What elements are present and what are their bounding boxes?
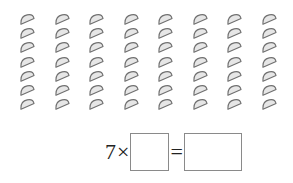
- answer-box-2[interactable]: [184, 133, 242, 171]
- semicircle-dumpling-icon: [53, 55, 88, 69]
- semicircle-dumpling-icon: [53, 97, 88, 111]
- semicircle-dumpling-icon: [225, 40, 260, 54]
- semicircle-dumpling-icon: [122, 12, 157, 26]
- semicircle-dumpling-icon: [18, 55, 53, 69]
- semicircle-dumpling-icon: [260, 12, 293, 26]
- semicircle-dumpling-icon: [191, 40, 226, 54]
- semicircle-dumpling-icon: [87, 69, 122, 83]
- semicircle-dumpling-icon: [225, 55, 260, 69]
- semicircle-dumpling-icon: [156, 26, 191, 40]
- semicircle-dumpling-icon: [87, 40, 122, 54]
- semicircle-dumpling-icon: [53, 69, 88, 83]
- semicircle-dumpling-icon: [87, 97, 122, 111]
- semicircle-dumpling-icon: [18, 12, 53, 26]
- semicircle-dumpling-icon: [122, 55, 157, 69]
- semicircle-dumpling-icon: [18, 83, 53, 97]
- semicircle-dumpling-icon: [260, 40, 293, 54]
- semicircle-dumpling-icon: [18, 40, 53, 54]
- item-grid: [18, 12, 292, 111]
- semicircle-dumpling-icon: [53, 26, 88, 40]
- answer-box-1[interactable]: [130, 133, 169, 171]
- semicircle-dumpling-icon: [156, 83, 191, 97]
- semicircle-dumpling-icon: [87, 26, 122, 40]
- semicircle-dumpling-icon: [191, 55, 226, 69]
- semicircle-dumpling-icon: [225, 69, 260, 83]
- times-sign: ×: [117, 139, 129, 165]
- semicircle-dumpling-icon: [260, 26, 293, 40]
- semicircle-dumpling-icon: [156, 40, 191, 54]
- semicircle-dumpling-icon: [260, 83, 293, 97]
- semicircle-dumpling-icon: [225, 26, 260, 40]
- semicircle-dumpling-icon: [156, 97, 191, 111]
- semicircle-dumpling-icon: [122, 26, 157, 40]
- semicircle-dumpling-icon: [18, 69, 53, 83]
- semicircle-dumpling-icon: [260, 55, 293, 69]
- semicircle-dumpling-icon: [260, 97, 293, 111]
- semicircle-dumpling-icon: [53, 40, 88, 54]
- semicircle-dumpling-icon: [156, 12, 191, 26]
- semicircle-dumpling-icon: [122, 97, 157, 111]
- semicircle-dumpling-icon: [87, 55, 122, 69]
- semicircle-dumpling-icon: [122, 83, 157, 97]
- semicircle-dumpling-icon: [87, 83, 122, 97]
- factor: 7: [105, 139, 116, 165]
- semicircle-dumpling-icon: [18, 26, 53, 40]
- semicircle-dumpling-icon: [156, 55, 191, 69]
- equation: 7 × =: [105, 133, 242, 171]
- semicircle-dumpling-icon: [18, 97, 53, 111]
- semicircle-dumpling-icon: [225, 12, 260, 26]
- semicircle-dumpling-icon: [191, 26, 226, 40]
- semicircle-dumpling-icon: [191, 69, 226, 83]
- semicircle-dumpling-icon: [122, 40, 157, 54]
- semicircle-dumpling-icon: [191, 97, 226, 111]
- equals-sign: =: [170, 139, 182, 165]
- semicircle-dumpling-icon: [53, 12, 88, 26]
- semicircle-dumpling-icon: [156, 69, 191, 83]
- semicircle-dumpling-icon: [225, 83, 260, 97]
- semicircle-dumpling-icon: [191, 12, 226, 26]
- semicircle-dumpling-icon: [191, 83, 226, 97]
- semicircle-dumpling-icon: [260, 69, 293, 83]
- semicircle-dumpling-icon: [53, 83, 88, 97]
- semicircle-dumpling-icon: [225, 97, 260, 111]
- semicircle-dumpling-icon: [87, 12, 122, 26]
- semicircle-dumpling-icon: [122, 69, 157, 83]
